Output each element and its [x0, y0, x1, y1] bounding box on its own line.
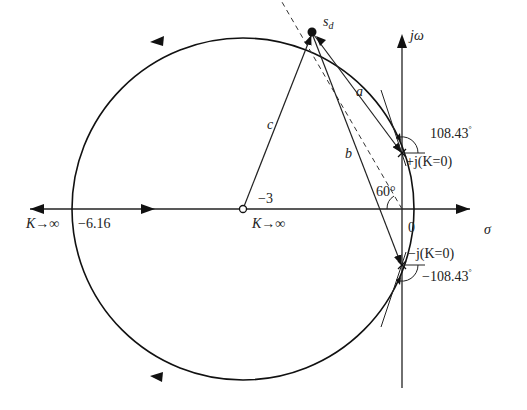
arrow-lower-arc	[150, 372, 163, 382]
arrow-into-sd	[316, 36, 326, 46]
k-inf-zero-label: K→∞	[251, 216, 285, 231]
vector-c-label: c	[267, 117, 274, 132]
vector-b-label: b	[345, 146, 352, 161]
vector-c	[243, 36, 311, 209]
imag-axis-label: jω	[408, 28, 424, 43]
lower-angle-label: −108.43°	[422, 268, 472, 284]
sd-point	[308, 28, 317, 37]
pos-pole-label: +j(K=0)	[406, 154, 452, 170]
vector-a-label: a	[356, 84, 363, 99]
arrow-toward-zero	[141, 204, 155, 214]
vector-b	[313, 36, 401, 264]
arrow-left-k-inf	[30, 204, 44, 214]
neg-pole-label: −j(K=0)	[408, 246, 454, 262]
zero-marker	[240, 206, 247, 213]
zero-label: −3	[258, 191, 273, 206]
breakaway-label: −6.16	[78, 216, 110, 231]
k-inf-left-label: K→∞	[25, 216, 59, 231]
real-axis	[30, 204, 470, 214]
sd-label: sd	[323, 14, 334, 31]
root-locus-diagram: jω σ 0 sd a b c 108.43° +j(K=0) −j(K=0) …	[0, 0, 527, 410]
damping-line	[275, 0, 402, 209]
damping-angle-label: 60°	[376, 184, 396, 199]
real-axis-label: σ	[484, 222, 492, 237]
origin-label: 0	[408, 220, 415, 235]
upper-angle-label: 108.43°	[430, 125, 472, 141]
arrow-upper-arc	[150, 36, 164, 46]
imaginary-axis	[397, 34, 407, 388]
